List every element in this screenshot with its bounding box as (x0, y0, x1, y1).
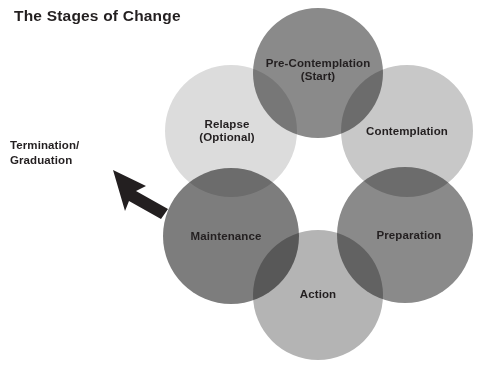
stage-label-preparation: Preparation (376, 229, 441, 242)
termination-line-1: Termination/ (10, 138, 79, 153)
stage-label-pre-contemplation-line-1: Pre-Contemplation (266, 57, 371, 70)
stage-label-maintenance: Maintenance (191, 230, 262, 243)
termination-graduation-label: Termination/ Graduation (10, 138, 79, 168)
termination-line-2: Graduation (10, 153, 79, 168)
stage-label-contemplation: Contemplation (366, 125, 448, 138)
stage-label-pre-contemplation-line-2: (Start) (266, 70, 371, 83)
stage-label-relapse: Relapse(Optional) (199, 118, 254, 144)
stage-label-preparation-line-1: Preparation (376, 229, 441, 242)
stages-of-change-diagram: The Stages of Change Pre-Contemplation(S… (0, 0, 484, 368)
circles-canvas (0, 0, 484, 368)
arrow-up-left-icon (113, 170, 168, 219)
stage-label-action-line-1: Action (300, 288, 336, 301)
stage-label-relapse-line-1: Relapse (199, 118, 254, 131)
stage-label-pre-contemplation: Pre-Contemplation(Start) (266, 57, 371, 83)
stage-label-maintenance-line-1: Maintenance (191, 230, 262, 243)
stage-label-relapse-line-2: (Optional) (199, 131, 254, 144)
stage-label-contemplation-line-1: Contemplation (366, 125, 448, 138)
stage-label-action: Action (300, 288, 336, 301)
